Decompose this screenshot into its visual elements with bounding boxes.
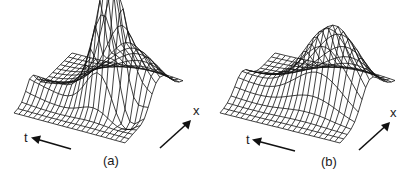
panel-caption-a: (a) — [103, 154, 119, 167]
x-axis-label-b: x — [390, 106, 397, 119]
panel-caption-b: (b) — [321, 155, 337, 168]
x-arrow-icon-b — [359, 122, 390, 150]
surface-plot-a — [14, 0, 183, 143]
x-arrow-icon-a — [160, 120, 191, 148]
x-axis-label-a: x — [193, 104, 200, 117]
truncated-caption-line — [140, 178, 405, 183]
figure-canvas — [0, 0, 405, 183]
t-axis-label-b: t — [246, 133, 250, 146]
t-axis-label-a: t — [24, 131, 28, 144]
surface-plot-b — [220, 25, 395, 143]
t-arrow-icon-b — [252, 138, 295, 152]
t-arrow-icon-a — [31, 136, 71, 150]
